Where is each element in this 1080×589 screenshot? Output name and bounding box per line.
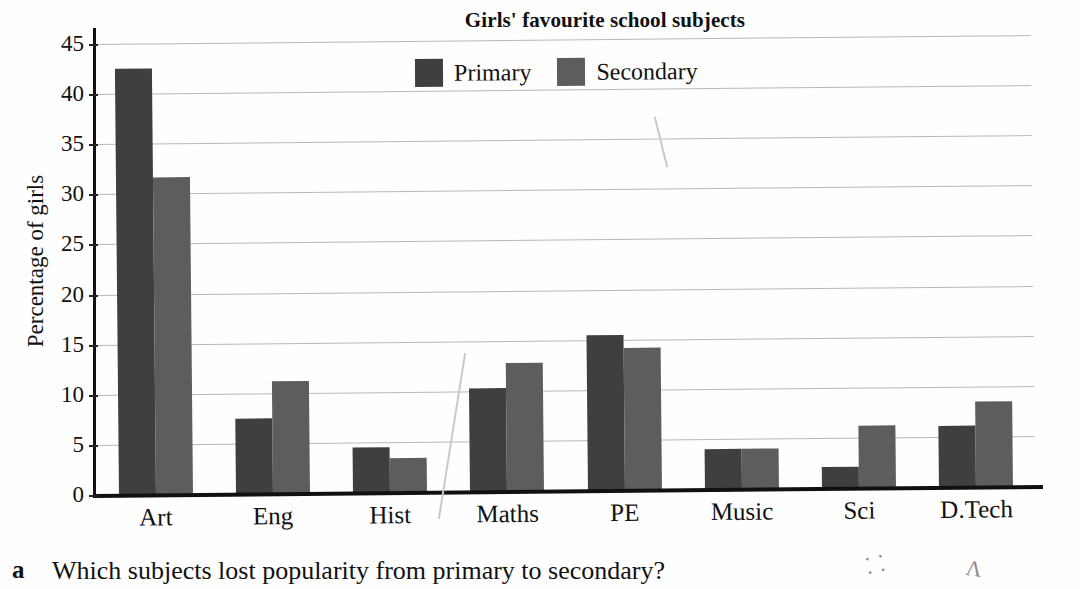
gridline bbox=[96, 336, 1034, 346]
bar-hist-primary bbox=[353, 447, 390, 492]
gridline bbox=[94, 185, 1032, 195]
bar-pe-secondary bbox=[623, 347, 661, 490]
question-text: Which subjects lost popularity from prim… bbox=[52, 556, 665, 586]
x-axis-tick-label: Eng bbox=[214, 503, 331, 529]
y-axis-tick bbox=[89, 345, 98, 347]
gridline bbox=[93, 35, 1031, 45]
bar-maths-secondary bbox=[506, 362, 544, 491]
bar-maths-primary bbox=[469, 388, 507, 492]
plot-area bbox=[93, 35, 1035, 495]
y-axis-tick bbox=[89, 94, 98, 96]
gridline bbox=[94, 135, 1032, 145]
bar-pe-primary bbox=[586, 335, 624, 491]
bar-art-secondary bbox=[153, 177, 193, 494]
y-axis-tick bbox=[89, 194, 98, 196]
bar-music-secondary bbox=[741, 448, 778, 488]
bar-art-primary bbox=[115, 69, 156, 495]
y-axis-tick bbox=[89, 44, 98, 46]
x-axis-tick-label: Maths bbox=[449, 500, 566, 526]
gridline bbox=[93, 85, 1031, 95]
y-axis-line bbox=[93, 28, 96, 498]
bar-dtech-secondary bbox=[976, 401, 1014, 487]
y-axis-tick bbox=[89, 244, 98, 246]
question-line: a Which subjects lost popularity from pr… bbox=[0, 556, 1080, 589]
x-axis-tick-label: Art bbox=[97, 504, 214, 530]
x-axis-tick-label: PE bbox=[566, 499, 683, 525]
bar-chart-figure: Girls' favourite school subjects Primary… bbox=[0, 0, 1080, 545]
x-axis-tick-label: Hist bbox=[332, 502, 449, 528]
x-axis-tick-label: Sci bbox=[801, 497, 918, 523]
bar-sci-primary bbox=[822, 467, 859, 488]
y-axis-tick bbox=[89, 445, 98, 447]
x-axis-tick-label: D.Tech bbox=[918, 496, 1035, 522]
gridline bbox=[96, 386, 1034, 396]
bar-hist-secondary bbox=[390, 458, 427, 492]
bar-sci-secondary bbox=[858, 425, 896, 487]
gridline bbox=[95, 286, 1033, 296]
x-axis-tick-label: Music bbox=[683, 498, 800, 524]
question-marker: a bbox=[12, 556, 25, 584]
chart-page: Girls' favourite school subjects Primary… bbox=[0, 0, 1080, 589]
plot-skew-layer: ArtEngHistMathsPEMusicSciD.Tech bbox=[0, 0, 1080, 546]
bar-eng-primary bbox=[235, 418, 273, 494]
bar-music-primary bbox=[704, 449, 741, 489]
y-axis-tick bbox=[89, 144, 98, 146]
bar-eng-secondary bbox=[272, 381, 310, 494]
y-axis-tick bbox=[89, 395, 98, 397]
x-axis-tick-labels: ArtEngHistMathsPEMusicSciD.Tech bbox=[0, 0, 1075, 1]
y-axis-tick bbox=[89, 295, 98, 297]
bar-dtech-primary bbox=[939, 425, 977, 486]
y-axis-tick bbox=[89, 495, 98, 497]
gridline bbox=[95, 235, 1033, 245]
